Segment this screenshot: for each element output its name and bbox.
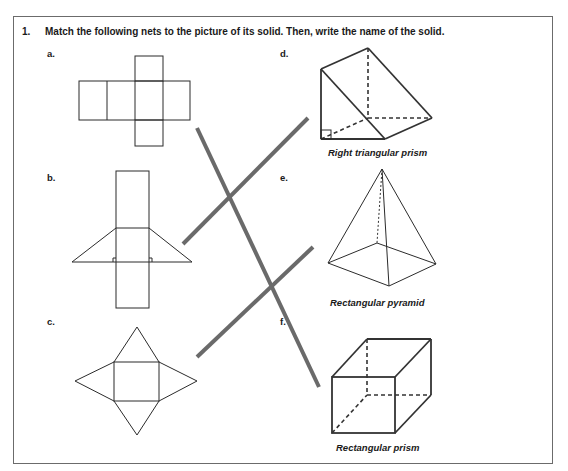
rectangular-pyramid-net — [75, 327, 197, 435]
figures-canvas — [0, 0, 568, 471]
rectangular-pyramid — [328, 169, 436, 286]
rectangular-prism — [332, 339, 431, 433]
cube-net — [79, 56, 190, 146]
right-triangular-prism — [321, 48, 432, 139]
triangular-prism-net — [72, 171, 192, 308]
